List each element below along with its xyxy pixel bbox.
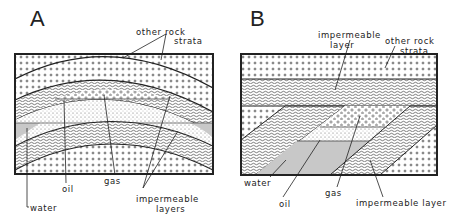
label-a-gas: gas bbox=[104, 176, 121, 186]
label-b-layer-top: layer bbox=[330, 40, 354, 50]
label-b-other-rock: other rock bbox=[385, 36, 434, 46]
label-b-strata: strata bbox=[400, 46, 429, 56]
label-b-oil: oil bbox=[279, 199, 291, 209]
label-b-impermeable-top: impermeable bbox=[318, 30, 381, 40]
panel-b-section bbox=[241, 54, 437, 175]
label-a-oil: oil bbox=[62, 184, 74, 194]
panel-a-section bbox=[15, 54, 213, 174]
panel-b-letter: B bbox=[250, 6, 265, 32]
label-b-water: water bbox=[244, 178, 271, 188]
panel-a-letter: A bbox=[30, 6, 45, 32]
label-b-gas: gas bbox=[325, 188, 342, 198]
label-a-water: water bbox=[30, 203, 57, 213]
label-a-strata: strata bbox=[174, 36, 203, 46]
label-b-impermeable-layer: impermeable layer bbox=[356, 198, 447, 208]
label-a-impermeable: impermeable bbox=[136, 194, 199, 204]
label-a-layers: layers bbox=[156, 204, 185, 214]
